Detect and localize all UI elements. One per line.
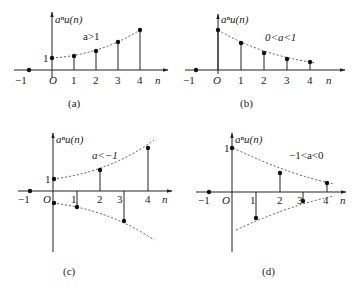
svg-text:4: 4: [145, 193, 151, 205]
svg-text:O: O: [49, 74, 57, 86]
svg-text:4: 4: [307, 74, 313, 86]
envelope-lower: [53, 203, 154, 240]
one-label: 1: [45, 173, 51, 185]
svg-text:−1: −1: [18, 193, 30, 205]
svg-text:3: 3: [117, 193, 123, 205]
svg-text:−1: −1: [183, 74, 195, 86]
y-label: aⁿu(n): [235, 133, 263, 146]
svg-text:1: 1: [238, 74, 244, 86]
svg-text:1: 1: [250, 194, 256, 206]
svg-text:1: 1: [71, 193, 77, 205]
svg-text:3: 3: [297, 194, 303, 206]
svg-text:2: 2: [261, 74, 267, 86]
panel-d: aⁿu(n) −1<a<0 1 −1 O 1 2 3 4 n (d): [196, 133, 346, 278]
condition-label: −1<a<0: [289, 149, 324, 161]
svg-text:4: 4: [323, 194, 329, 206]
svg-text:2: 2: [277, 194, 283, 206]
y-label: aⁿu(n): [55, 13, 83, 26]
caption: (b): [240, 97, 253, 110]
svg-text:2: 2: [93, 74, 99, 86]
signal-figure: aⁿu(n) a>1 1 −1 O 1 2 3 4 n (a) aⁿu(n) 0…: [0, 0, 355, 290]
svg-text:n: n: [162, 193, 168, 205]
panel-c: aⁿu(n) a<−1 1 −1 O 1 2 3 4 n (c): [18, 133, 172, 278]
svg-text:4: 4: [137, 74, 143, 86]
panel-a: aⁿu(n) a>1 1 −1 O 1 2 3 4 n (a): [14, 12, 168, 110]
svg-text:n: n: [340, 194, 346, 206]
svg-text:3: 3: [284, 74, 290, 86]
panel-b: aⁿu(n) 0<a<1 −1 O 1 2 3 4 n (b): [183, 13, 345, 110]
svg-text:2: 2: [97, 193, 103, 205]
svg-text:n: n: [326, 74, 332, 86]
condition-label: a>1: [83, 30, 100, 42]
condition-label: a<−1: [92, 149, 118, 161]
svg-text:n: n: [155, 74, 161, 86]
svg-text:−1: −1: [15, 74, 27, 86]
one-label: 1: [43, 52, 49, 64]
svg-text:3: 3: [115, 74, 121, 86]
svg-text:1: 1: [71, 74, 77, 86]
caption: (d): [262, 265, 275, 278]
svg-text:O: O: [43, 193, 51, 205]
one-label: 1: [224, 142, 230, 154]
svg-text:−1: −1: [198, 194, 210, 206]
svg-text:O: O: [222, 194, 230, 206]
caption: (c): [63, 265, 76, 278]
caption: (a): [68, 97, 81, 110]
y-label: aⁿu(n): [56, 133, 84, 146]
condition-label: 0<a<1: [265, 31, 296, 43]
y-label: aⁿu(n): [221, 13, 249, 26]
svg-text:O: O: [213, 74, 221, 86]
